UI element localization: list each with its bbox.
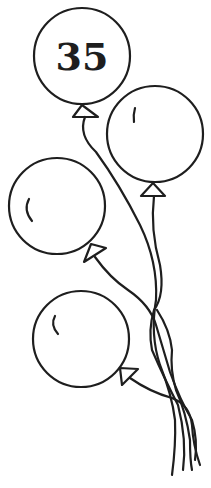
balloon-tie-right	[141, 183, 165, 196]
balloon-tie-top	[73, 105, 98, 117]
highlight-bottom	[53, 316, 58, 334]
highlight-left	[27, 199, 32, 221]
balloon-illustration: 35	[0, 0, 211, 488]
balloon-left	[9, 158, 106, 262]
balloon-bottom	[33, 291, 138, 387]
highlight-right	[134, 108, 135, 122]
balloon-right	[107, 86, 203, 196]
balloon-number-label: 35	[34, 34, 130, 80]
balloon-tie-left	[84, 244, 106, 262]
